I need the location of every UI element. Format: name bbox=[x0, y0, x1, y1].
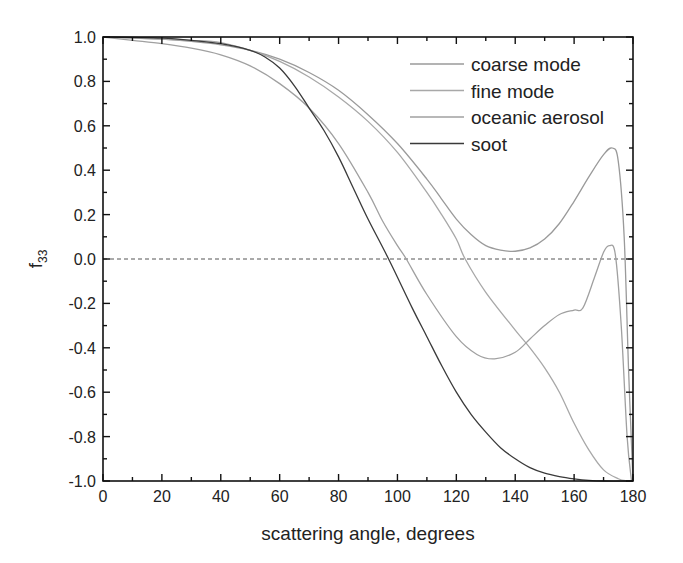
x-tick-label: 160 bbox=[561, 488, 588, 505]
svg-text:f33: f33 bbox=[25, 249, 50, 268]
x-tick-label: 140 bbox=[502, 488, 529, 505]
y-tick-label: -0.6 bbox=[68, 384, 96, 401]
y-tick-label: 0.6 bbox=[74, 118, 96, 135]
x-tick-label: 40 bbox=[212, 488, 230, 505]
x-axis-title: scattering angle, degrees bbox=[261, 523, 474, 544]
axes-layer: 020406080100120140160180-1.0-0.8-0.6-0.4… bbox=[68, 29, 646, 505]
y-tick-label: 0.4 bbox=[74, 162, 96, 179]
x-tick-label: 60 bbox=[271, 488, 289, 505]
legend: coarse modefine modeoceanic aerosolsoot bbox=[410, 54, 604, 155]
y-tick-label: -0.2 bbox=[68, 295, 96, 312]
y-tick-label: 0.2 bbox=[74, 207, 96, 224]
legend-label: soot bbox=[471, 134, 508, 155]
x-tick-label: 120 bbox=[443, 488, 470, 505]
y-tick-label: 0.8 bbox=[74, 73, 96, 90]
x-tick-label: 80 bbox=[330, 488, 348, 505]
legend-item-fine-mode: fine mode bbox=[410, 81, 554, 102]
y-tick-label: 1.0 bbox=[74, 29, 96, 46]
f33-scattering-chart: 020406080100120140160180-1.0-0.8-0.6-0.4… bbox=[0, 0, 683, 563]
y-axis-title: f33 bbox=[25, 249, 50, 268]
y-tick-label: -1.0 bbox=[68, 473, 96, 490]
y-tick-label: -0.4 bbox=[68, 340, 96, 357]
legend-item-soot: soot bbox=[410, 134, 508, 155]
x-tick-label: 100 bbox=[384, 488, 411, 505]
x-tick-label: 0 bbox=[99, 488, 108, 505]
legend-item-oceanic-aerosol: oceanic aerosol bbox=[410, 107, 604, 128]
legend-label: fine mode bbox=[471, 81, 554, 102]
y-tick-label: 0.0 bbox=[74, 251, 96, 268]
legend-item-coarse-mode: coarse mode bbox=[410, 54, 581, 75]
x-tick-label: 20 bbox=[153, 488, 171, 505]
legend-label: coarse mode bbox=[471, 54, 581, 75]
y-tick-label: -0.8 bbox=[68, 429, 96, 446]
x-tick-label: 180 bbox=[620, 488, 647, 505]
legend-label: oceanic aerosol bbox=[471, 107, 604, 128]
y-axis-title-subscript: 33 bbox=[36, 249, 50, 263]
